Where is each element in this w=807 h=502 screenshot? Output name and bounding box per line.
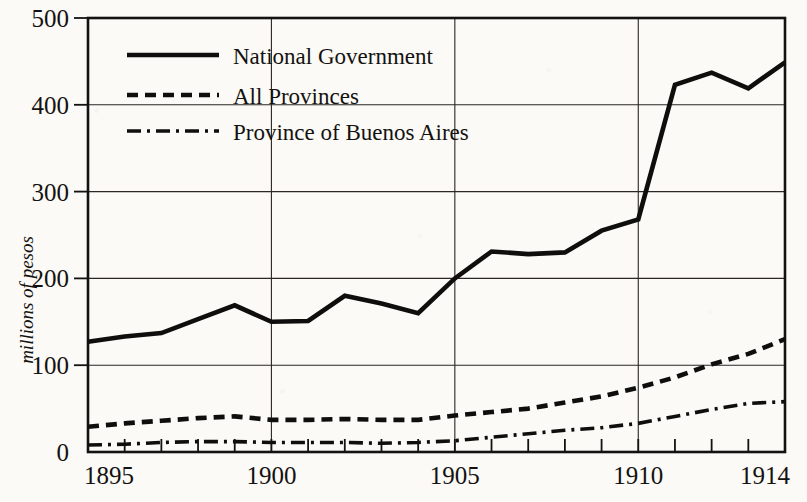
y-tick-label: 0: [57, 439, 70, 466]
y-tick-label: 500: [32, 5, 70, 32]
y-tick-label: 200: [32, 265, 70, 292]
y-tick-label: 400: [32, 92, 70, 119]
x-tick-label: 1910: [613, 462, 663, 489]
x-tick-label: 1895: [84, 462, 134, 489]
x-tick-label: 1905: [430, 462, 480, 489]
y-tick-label: 100: [32, 352, 70, 379]
legend-label-1: National Government: [233, 44, 434, 69]
legend-label-2: All Provinces: [233, 84, 359, 109]
y-axis-title-group: millions of pesos: [16, 236, 37, 364]
x-tick-label: 1914: [740, 462, 791, 489]
x-tick-label: 1900: [246, 462, 296, 489]
legend-label-3: Province of Buenos Aires: [233, 120, 469, 145]
y-axis-title: millions of pesos: [16, 236, 37, 364]
chart-figure: 0100200300400500 18951900190519101914 mi…: [0, 0, 807, 502]
revenue-line-chart: 0100200300400500 18951900190519101914 mi…: [0, 0, 807, 502]
y-tick-label: 300: [32, 179, 70, 206]
chart-background: [0, 0, 807, 502]
